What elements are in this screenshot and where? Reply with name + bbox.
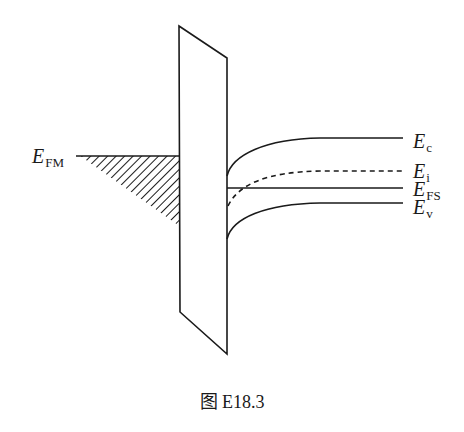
band-diagram [0,0,464,432]
label-ec-sub: c [426,140,432,155]
label-ev: Ev [413,197,433,220]
figure-caption: 图 E18.3 [0,387,464,413]
hatched-filled-states [80,156,179,226]
label-ev-sub: v [426,206,433,221]
metal-region [76,156,179,226]
insulator-barrier [179,26,227,354]
label-ec: Ec [413,131,432,154]
label-ev-main: E [413,196,425,218]
label-efm-main: E [32,145,44,167]
label-efm-sub: FM [45,155,64,170]
label-efm: EFM [32,146,64,169]
label-ec-main: E [413,130,425,152]
ev-band [227,203,403,239]
semiconductor-bands [227,138,403,239]
ec-band [227,138,403,176]
